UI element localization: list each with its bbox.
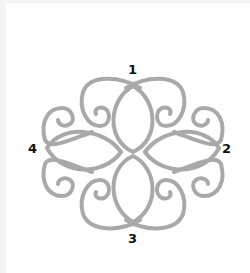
right-petal xyxy=(145,132,219,170)
label-2: 2 xyxy=(222,142,231,155)
top-petal xyxy=(113,86,152,152)
label-1: 1 xyxy=(128,63,137,76)
bottom-petal xyxy=(113,156,152,222)
label-3: 3 xyxy=(128,232,137,245)
scroll-knot-figure xyxy=(0,0,250,273)
left-petal xyxy=(47,132,121,170)
label-4: 4 xyxy=(28,142,37,155)
